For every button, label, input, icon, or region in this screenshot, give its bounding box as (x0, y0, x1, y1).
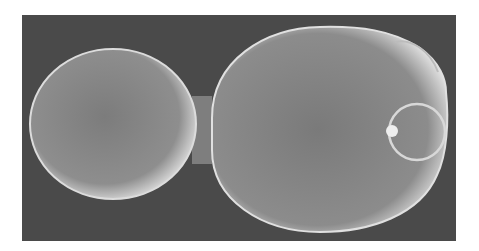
daughter-cell (30, 49, 196, 199)
bud-scar-dot (386, 125, 398, 137)
micrograph (0, 0, 479, 251)
mother-cell (212, 27, 447, 232)
